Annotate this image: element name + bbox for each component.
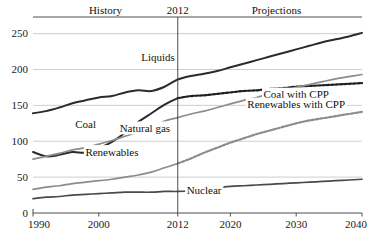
x-tick-label-2000: 2000 [88,218,111,230]
series-underlay-renewables-with-cpp [178,112,362,164]
y-tick-label-100: 100 [12,135,29,147]
period-caption-2012: 2012 [167,4,189,16]
x-tick-label-1990: 1990 [28,218,51,230]
period-caption-history: History [89,4,123,16]
y-tick-label-200: 200 [12,63,29,75]
series-line-renewables-with-cpp [178,112,362,164]
x-tick-label-2012: 2012 [167,218,189,230]
y-tick-label-250: 250 [12,27,29,39]
y-tick-label-0: 0 [23,207,29,219]
energy-outlook-chart: 050100150200250199020002012202020302040 … [0,0,369,247]
x-tick-label-2040: 2040 [345,218,368,230]
tick-labels-group: 050100150200250199020002012202020302040 [12,27,368,230]
series-label-renewables-with-cpp: Renewables with CPP [247,98,345,110]
series-label-renewables: Renewables [85,146,138,158]
series-group [33,33,362,199]
series-label-liquids: Liquids [141,51,175,63]
y-tick-label-150: 150 [12,99,29,111]
series-label-coal: Coal [75,118,96,130]
x-tick-label-2030: 2030 [285,218,308,230]
y-tick-label-50: 50 [17,171,29,183]
series-label-nuclear: Nuclear [187,184,222,196]
x-tick-label-2020: 2020 [219,218,242,230]
series-line-renewables [33,163,178,189]
period-annotations-group: History2012Projections [89,4,301,16]
chart-canvas: 050100150200250199020002012202020302040 … [0,0,369,247]
series-label-natural-gas: Natural gas [120,122,170,134]
period-caption-projections: Projections [252,4,302,16]
